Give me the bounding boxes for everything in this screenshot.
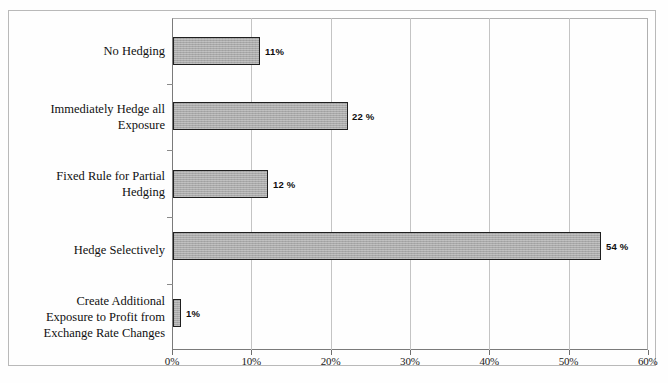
category-label-line: Hedge Selectively <box>5 242 165 258</box>
ytick-mark-4 <box>167 284 173 285</box>
bar-hedge-selectively <box>173 232 601 260</box>
ytick-mark-2 <box>167 150 173 151</box>
bar-texture <box>174 233 600 259</box>
xtick-label-60: 60% <box>626 355 668 367</box>
xtick-label-50: 50% <box>547 355 591 367</box>
bar-fixed-rule-for-partial-hedging <box>173 170 268 198</box>
ytick-mark-1 <box>167 84 173 85</box>
bar-chart: 0% 10% 20% 30% 40% 50% 60% No Hedging Im… <box>0 0 668 383</box>
bar-no-hedging <box>173 37 260 65</box>
category-label-line: Hedging <box>5 184 165 200</box>
category-label-line: No Hedging <box>5 43 165 59</box>
gridline-20 <box>331 18 332 350</box>
xtick-label-10: 10% <box>229 355 273 367</box>
bar-value-label-fixed-rule-for-partial-hedging: 12 % <box>273 179 295 190</box>
bar-texture <box>174 103 347 129</box>
category-label-immediately-hedge-all-exposure: Immediately Hedge all Exposure <box>5 101 165 133</box>
gridline-40 <box>489 18 490 350</box>
bar-texture <box>174 171 267 197</box>
bar-texture <box>174 300 180 326</box>
xtick-label-0: 0% <box>150 355 194 367</box>
category-label-line: Immediately Hedge all <box>5 101 165 117</box>
bar-immediately-hedge-all-exposure <box>173 102 348 130</box>
bar-value-label-hedge-selectively: 54 % <box>606 241 628 252</box>
bar-create-additional-exposure <box>173 299 181 327</box>
category-label-no-hedging: No Hedging <box>5 43 165 59</box>
gridline-50 <box>569 18 570 350</box>
bar-value-label-no-hedging: 11% <box>265 46 284 57</box>
xtick-label-40: 40% <box>467 355 511 367</box>
bar-value-label-create-additional-exposure: 1% <box>186 308 200 319</box>
category-label-fixed-rule-for-partial-hedging: Fixed Rule for Partial Hedging <box>5 168 165 200</box>
category-label-create-additional-exposure: Create Additional Exposure to Profit fro… <box>5 293 165 341</box>
category-label-line: Exchange Rate Changes <box>5 325 165 341</box>
xtick-label-20: 20% <box>309 355 353 367</box>
category-label-hedge-selectively: Hedge Selectively <box>5 242 165 258</box>
category-label-line: Exposure to Profit from <box>5 309 165 325</box>
bar-value-label-immediately-hedge-all-exposure: 22 % <box>352 111 374 122</box>
ytick-mark-3 <box>167 217 173 218</box>
category-label-line: Create Additional <box>5 293 165 309</box>
category-label-line: Fixed Rule for Partial <box>5 168 165 184</box>
gridline-30 <box>410 18 411 350</box>
category-label-line: Exposure <box>5 117 165 133</box>
xtick-label-30: 30% <box>388 355 432 367</box>
bar-texture <box>174 38 259 64</box>
